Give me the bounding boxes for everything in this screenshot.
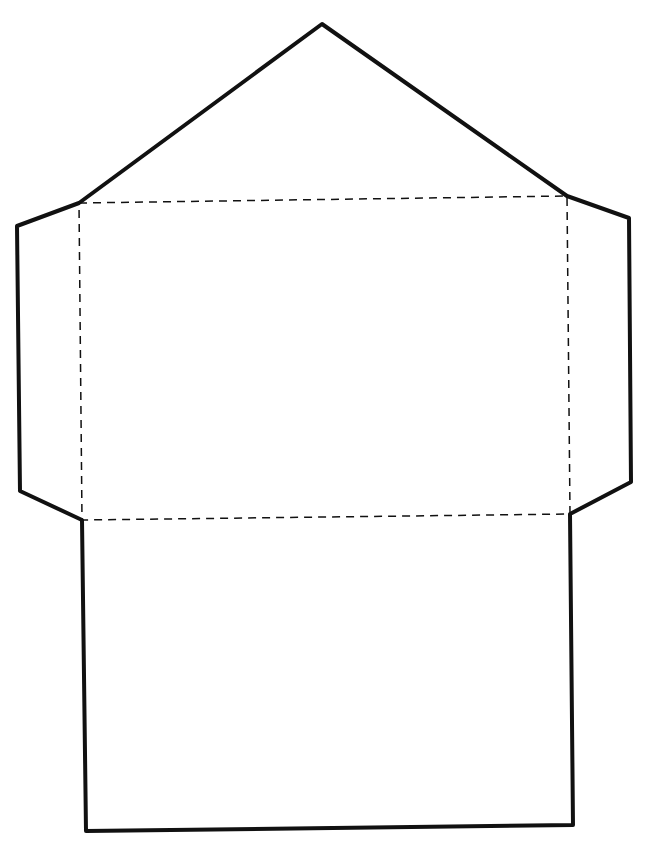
envelope-fold-lines [79,196,570,520]
envelope-cut-outline [17,24,631,831]
envelope-template [0,0,647,844]
